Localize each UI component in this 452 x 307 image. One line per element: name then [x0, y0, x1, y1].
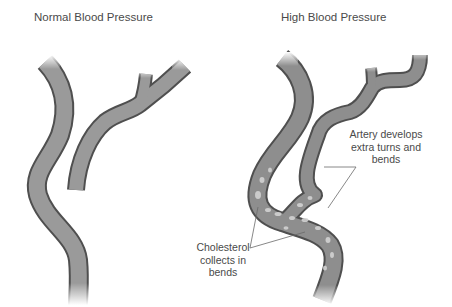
normal-artery: [30, 55, 196, 305]
annotation-line: bends: [186, 266, 260, 279]
annotation-line: extra turns and: [333, 141, 439, 154]
annotation-cholesterol: Cholesterol collects in bends: [186, 241, 260, 279]
high-bp-artery: [255, 48, 430, 305]
annotation-line: Artery develops: [333, 128, 439, 141]
normal-blood-pressure-title: Normal Blood Pressure: [34, 11, 153, 23]
annotation-line: bends: [333, 153, 439, 166]
annotation-line: Cholesterol: [186, 241, 260, 254]
annotation-extra-turns: Artery develops extra turns and bends: [333, 128, 439, 166]
high-blood-pressure-title: High Blood Pressure: [281, 11, 386, 23]
annotation-line: collects in: [186, 254, 260, 267]
